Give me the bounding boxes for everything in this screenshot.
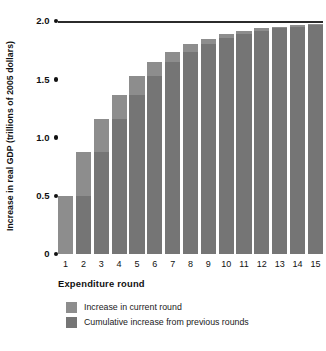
legend-item: Increase in current round xyxy=(66,302,316,313)
y-axis-tick-label: 0.5 xyxy=(36,191,49,201)
stacked-bar xyxy=(112,95,127,254)
bar-segment-cumulative xyxy=(272,28,287,254)
x-axis-tick-label: 4 xyxy=(112,258,127,271)
stacked-bar xyxy=(254,28,269,254)
y-axis-tick: 0 xyxy=(2,248,58,260)
x-axis-tick-label: 12 xyxy=(254,258,269,271)
x-axis-title: Expenditure round xyxy=(58,278,145,289)
legend-label: Cumulative increase from previous rounds xyxy=(84,317,249,328)
bar-segment-cumulative xyxy=(147,76,162,254)
bar-column xyxy=(58,21,73,254)
bar-column xyxy=(165,21,180,254)
x-axis-tick-label: 2 xyxy=(76,258,91,271)
stacked-bar xyxy=(58,196,73,254)
y-axis-tick: 1.0 xyxy=(2,132,58,144)
x-axis-tick-label: 1 xyxy=(58,258,73,271)
bar-column xyxy=(183,21,198,254)
x-axis-tick-label: 15 xyxy=(308,258,323,271)
bar-segment-cumulative xyxy=(112,119,127,254)
bar-segment-current-round xyxy=(76,152,91,196)
bar-segment-cumulative xyxy=(290,27,305,254)
x-axis-tick-label: 14 xyxy=(290,258,305,271)
legend-swatch xyxy=(66,317,77,328)
x-axis-tick-label: 13 xyxy=(272,258,287,271)
bar-segment-cumulative xyxy=(201,44,216,254)
x-axis-tick-label: 8 xyxy=(183,258,198,271)
bar-column xyxy=(94,21,109,254)
bar-column xyxy=(201,21,216,254)
stacked-bar xyxy=(147,62,162,254)
bar-segment-current-round xyxy=(183,44,198,52)
bar-series-group xyxy=(58,21,323,254)
bar-segment-current-round xyxy=(112,95,127,120)
bar-segment-cumulative xyxy=(308,25,323,254)
legend-swatch xyxy=(66,302,77,313)
bar-segment-cumulative xyxy=(165,62,180,254)
stacked-bar xyxy=(219,34,234,254)
bar-segment-cumulative xyxy=(219,38,234,254)
chart-legend: Increase in current roundCumulative incr… xyxy=(66,302,316,332)
y-axis-tick-label: 2.0 xyxy=(36,16,49,26)
bar-segment-cumulative xyxy=(76,196,91,254)
bar-segment-cumulative xyxy=(94,152,109,254)
bar-column xyxy=(112,21,127,254)
bar-column xyxy=(236,21,251,254)
x-axis-tick-label: 7 xyxy=(165,258,180,271)
stacked-bar xyxy=(165,52,180,254)
bar-segment-current-round xyxy=(58,196,73,254)
x-axis-tick-label: 3 xyxy=(94,258,109,271)
bar-segment-cumulative xyxy=(183,52,198,254)
x-axis-tick-label: 5 xyxy=(129,258,144,271)
bar-segment-current-round xyxy=(147,62,162,76)
bar-column xyxy=(219,21,234,254)
stacked-bar xyxy=(94,119,109,254)
stacked-bar xyxy=(201,39,216,255)
legend-item: Cumulative increase from previous rounds xyxy=(66,317,316,328)
y-axis-tick-label: 0 xyxy=(44,249,49,259)
y-axis-tick: 2.0 xyxy=(2,15,58,27)
stacked-bar xyxy=(236,31,251,254)
x-axis-tick-label: 10 xyxy=(219,258,234,271)
bar-column xyxy=(147,21,162,254)
x-axis-tick-label: 11 xyxy=(236,258,251,271)
x-axis-tick-label: 9 xyxy=(201,258,216,271)
plot-area: 00.51.01.52.0 xyxy=(58,21,323,254)
y-axis-tick-label: 1.5 xyxy=(36,75,49,85)
stacked-bar xyxy=(272,27,287,254)
bar-column xyxy=(290,21,305,254)
bar-column xyxy=(129,21,144,254)
bar-segment-current-round xyxy=(94,119,109,152)
bar-segment-cumulative xyxy=(254,31,269,254)
x-axis-tick-label: 6 xyxy=(147,258,162,271)
bar-segment-cumulative xyxy=(129,95,144,254)
stacked-bar xyxy=(76,152,91,254)
stacked-bar xyxy=(290,25,305,254)
multiplier-bar-chart: Increase in real GDP (trillions of 2005 … xyxy=(0,0,326,351)
x-axis-ticks: 123456789101112131415 xyxy=(58,258,323,271)
stacked-bar xyxy=(308,24,323,254)
bar-segment-current-round xyxy=(129,76,144,94)
bar-column xyxy=(76,21,91,254)
stacked-bar xyxy=(183,44,198,254)
bar-column xyxy=(308,21,323,254)
y-axis-tick: 1.5 xyxy=(2,73,58,85)
bar-column xyxy=(272,21,287,254)
y-axis-tick-label: 1.0 xyxy=(36,133,49,143)
legend-label: Increase in current round xyxy=(84,302,182,313)
bar-segment-cumulative xyxy=(236,34,251,254)
bar-segment-current-round xyxy=(165,52,180,62)
y-axis-tick: 0.5 xyxy=(2,190,58,202)
bar-column xyxy=(254,21,269,254)
stacked-bar xyxy=(129,76,144,254)
